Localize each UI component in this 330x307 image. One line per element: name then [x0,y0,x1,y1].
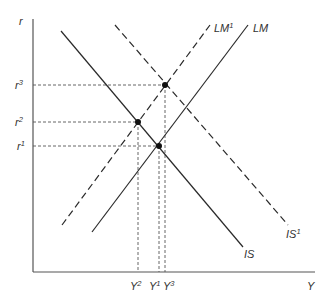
curve-labels: LM1 LM IS1 IS [214,21,301,260]
x-axis-label: Y [307,280,315,292]
lm1-label: LM1 [214,21,233,34]
guide-lines [33,85,165,272]
y2-label: Y2 [130,279,142,292]
y3-label: Y3 [163,279,175,292]
r-labels: r3 r2 r1 [15,78,25,152]
equilibrium-point-e1 [156,143,162,149]
r1-label: r1 [17,139,25,152]
equilibrium-point-e2 [135,119,141,125]
y-labels: Y2 Y1 Y3 [130,279,175,292]
y1-label: Y1 [149,279,161,292]
is-lm-diagram: r Y LM1 LM IS1 [0,0,330,307]
is-label: IS [244,248,255,260]
curves [61,25,288,247]
axes: r Y [19,15,315,292]
is1-label: IS1 [286,227,301,240]
lm1-curve [62,25,210,225]
equilibrium-point-e3 [162,82,168,88]
r2-label: r2 [15,115,24,128]
y-axis-label: r [19,15,24,27]
r3-label: r3 [15,78,24,91]
lm-label: LM [253,22,269,34]
lm-curve [92,25,248,232]
is-curve [61,31,243,247]
